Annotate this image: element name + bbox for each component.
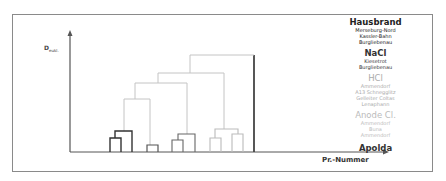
y-axis-label: Deukl. — [44, 44, 59, 53]
legend-group-hausbrand: Hausbrand Merseburg-Nord Kassler-Bahn Bu… — [328, 17, 423, 45]
legend: Hausbrand Merseburg-Nord Kassler-Bahn Bu… — [328, 17, 423, 156]
legend-group-nacl: NaCl Kiesetrot Burgliebenau — [328, 48, 423, 70]
legend-group-hcl: HCl Ammendorf A13 Schnegglitz Gelleiter … — [328, 73, 423, 107]
legend-group-apolda: Apolda — [328, 143, 423, 153]
legend-group-anode: Anode Cl. Ammendorf Buna Ammendorf — [328, 110, 423, 138]
y-axis-arrow-icon — [68, 30, 73, 36]
x-axis-label: Pr.-Nummer — [322, 156, 369, 164]
